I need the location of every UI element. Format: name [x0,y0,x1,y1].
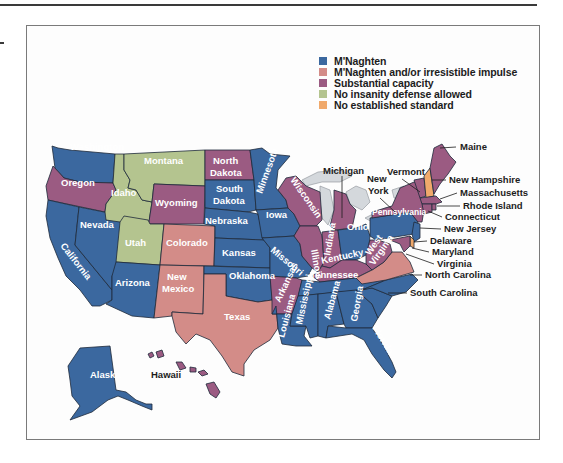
label-maine: Maine [460,141,487,152]
label-ohio: Ohio [347,221,369,232]
label-oklahoma: Oklahoma [229,270,276,281]
legend-label: No established standard [334,99,454,111]
massachusetts-leader [440,193,457,199]
label-nevada: Nevada [80,219,115,230]
label-washington: Washington [70,141,124,152]
legend-swatch [319,101,327,109]
state-massachusetts[interactable] [420,196,442,204]
label-utah: Utah [125,237,146,248]
label-south-dakota-2: Dakota [213,195,245,206]
label-rhode-island: Rhode Island [463,200,523,211]
label-new-hampshire: New Hampshire [449,174,520,185]
legend-item-mnaghten: M'Naghten [319,55,517,66]
label-texas: Texas [224,311,250,322]
label-delaware: Delaware [430,235,472,246]
state-arizona[interactable] [106,262,160,318]
label-idaho: Idaho [111,187,137,198]
label-massachusetts: Massachusetts [460,187,528,198]
legend-item-substantial-capacity: Substantial capacity [319,77,517,88]
label-connecticut: Connecticut [445,211,501,222]
label-virginia: Virginia [437,258,472,269]
legend-swatch [319,90,327,98]
label-new-jersey: New Jersey [444,223,497,234]
label-hawaii: Hawaii [151,369,181,380]
connecticut-leader [428,211,442,217]
label-pennsylvania: Pennsylvania [372,207,427,217]
label-kansas: Kansas [222,247,256,258]
label-south-dakota-1: South [216,183,243,194]
label-north-dakota-2: Dakota [210,167,242,178]
label-north-dakota-1: North [213,155,239,166]
legend-item-no-defense: No insanity defense allowed [319,88,517,99]
label-colorado: Colorado [166,237,208,248]
label-vermont: Vermont [387,166,426,177]
legend-item-mnaghten-irresistible: M'Naghten and/or irresistible impulse [319,66,517,77]
label-north-carolina: North Carolina [425,269,492,280]
label-montana: Montana [144,155,184,166]
state-rhode-island[interactable] [432,204,436,210]
legend-item-no-standard: No established standard [319,99,517,110]
label-arizona: Arizona [115,277,151,288]
legend-swatch [319,68,327,76]
label-new-mexico-2: Mexico [162,283,194,294]
legend-swatch [319,79,327,87]
legend: M'Naghten M'Naghten and/or irresistible … [319,55,517,110]
label-iowa: Iowa [266,209,288,220]
label-oregon: Oregon [61,177,95,188]
state-alaska[interactable] [68,346,152,420]
label-tennessee: Tennessee [310,269,358,280]
label-wyoming: Wyoming [155,197,198,208]
label-new-mexico-1: New [167,271,187,282]
label-new-york-1: New [367,173,387,184]
label-new-york-2: York [368,185,389,196]
new-jersey-leader [420,228,441,229]
label-maryland: Maryland [432,246,474,257]
maryland-leader [412,248,429,252]
label-alaska: Alaska [90,369,121,380]
label-michigan: Michigan [323,165,364,176]
label-south-carolina: South Carolina [410,287,478,298]
state-maine[interactable] [430,144,456,194]
label-nebraska: Nebraska [205,215,248,226]
legend-swatch [319,57,327,65]
